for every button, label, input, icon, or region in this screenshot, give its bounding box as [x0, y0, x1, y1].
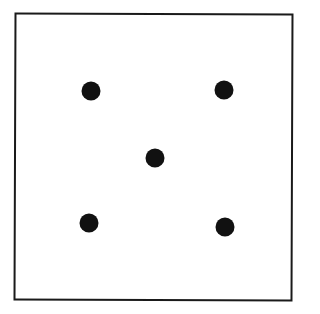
- pip-top-left: [82, 82, 101, 101]
- pip-bottom-left: [80, 214, 99, 233]
- pip-center: [146, 149, 165, 168]
- pip-bottom-right: [216, 218, 235, 237]
- pip-top-right: [215, 81, 234, 100]
